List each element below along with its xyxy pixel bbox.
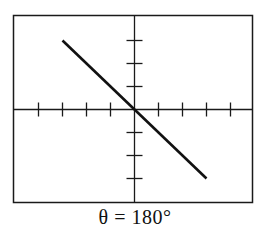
- oscilloscope-screen: [0, 0, 270, 233]
- figure-caption: θ = 180°: [0, 206, 270, 229]
